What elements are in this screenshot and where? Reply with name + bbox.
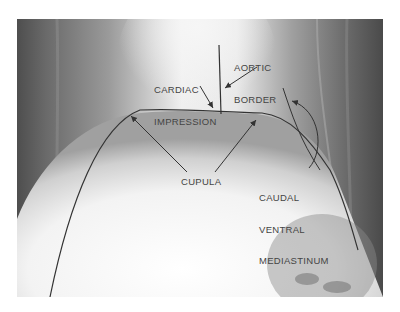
label-cupula: CUPULA xyxy=(181,177,221,188)
label-aortic-line2: BORDER xyxy=(234,95,276,106)
label-caudal-line2: VENTRAL xyxy=(259,225,329,236)
label-cardiac-line2: IMPRESSION xyxy=(154,117,217,128)
label-cardiac-line1: CARDIAC xyxy=(154,85,217,96)
label-caudal-line3: MEDIASTINUM xyxy=(259,256,329,267)
label-caudal-line1: CAUDAL xyxy=(259,193,329,204)
label-caudal-ventral-mediastinum: CAUDAL VENTRAL MEDIASTINUM xyxy=(259,172,329,277)
label-cardiac-impression: CARDIAC IMPRESSION xyxy=(154,64,217,138)
label-aortic-border: AORTIC BORDER xyxy=(234,42,276,116)
label-aortic-line1: AORTIC xyxy=(234,63,276,74)
